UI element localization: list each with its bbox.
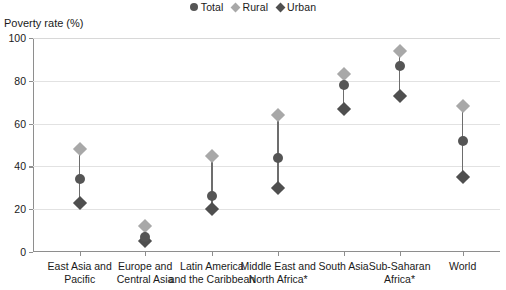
legend-label-rural: Rural [242,2,268,13]
data-point-rural[interactable] [393,44,407,58]
data-point-rural[interactable] [271,108,285,122]
x-axis-label-line: Middle East and [241,260,316,273]
x-axis-label-4: South Asia [318,260,368,273]
y-tick-label-80: 80 [14,75,26,87]
y-tick-mark-0 [29,252,33,253]
y-tick-mark-20 [29,209,33,210]
y-tick-label-0: 0 [20,246,26,258]
x-axis-label-line: Pacific [48,273,112,286]
x-axis-label-line: Central Asia [117,273,174,286]
data-point-urban[interactable] [336,102,350,116]
data-point-total[interactable] [207,191,217,201]
x-axis-label-line: South Asia [318,260,368,273]
gridline-100 [33,38,500,39]
x-axis-label-line: Sub-Saharan [369,260,431,273]
gridline-60 [33,124,500,125]
poverty-rate-chart: Total Rural Urban Poverty rate (%) 02040… [0,0,506,290]
x-axis-label-3: Middle East andNorth Africa* [241,260,316,285]
plot-area: 020406080100 [33,38,500,252]
legend-entry-rural[interactable]: Rural [232,2,268,13]
x-axis-label-5: Sub-SaharanAfrica* [369,260,431,285]
y-tick-mark-100 [29,38,33,39]
x-axis-label-0: East Asia andPacific [48,260,112,285]
x-axis-label-1: Europe andCentral Asia [117,260,174,285]
data-point-urban[interactable] [73,196,87,210]
data-point-rural[interactable] [205,149,219,163]
chart-legend: Total Rural Urban [0,2,506,13]
x-axis-label-6: World [449,260,476,273]
x-axis-labels: East Asia andPacificEurope andCentral As… [33,256,500,290]
data-point-total[interactable] [395,61,405,71]
x-axis-line [33,251,500,252]
data-point-total[interactable] [75,174,85,184]
y-tick-mark-60 [29,124,33,125]
legend-entry-urban[interactable]: Urban [277,2,316,13]
total-marker-icon [190,3,198,11]
y-tick-label-20: 20 [14,203,26,215]
x-axis-label-line: Africa* [369,273,431,286]
legend-label-total: Total [201,2,224,13]
y-tick-mark-80 [29,81,33,82]
data-point-total[interactable] [140,232,150,242]
gridline-80 [33,81,500,82]
data-point-rural[interactable] [73,142,87,156]
y-axis-title: Poverty rate (%) [4,17,83,29]
data-point-total[interactable] [339,80,349,90]
data-point-total[interactable] [273,153,283,163]
urban-marker-icon [276,2,286,12]
data-point-rural[interactable] [456,99,470,113]
x-axis-label-line: World [449,260,476,273]
range-connector [277,115,278,188]
y-axis-line [33,38,34,252]
rural-marker-icon [231,2,241,12]
y-tick-mark-40 [29,166,33,167]
x-axis-label-line: North Africa* [241,273,316,286]
x-axis-label-line: Europe and [117,260,174,273]
gridline-20 [33,209,500,210]
legend-entry-total[interactable]: Total [190,2,224,13]
data-point-urban[interactable] [205,202,219,216]
x-axis-label-line: East Asia and [48,260,112,273]
legend-label-urban: Urban [287,2,316,13]
y-tick-label-100: 100 [8,32,26,44]
data-point-urban[interactable] [271,181,285,195]
y-tick-label-60: 60 [14,118,26,130]
data-point-urban[interactable] [393,89,407,103]
y-tick-label-40: 40 [14,160,26,172]
data-point-total[interactable] [458,136,468,146]
gridline-40 [33,166,500,167]
data-point-urban[interactable] [456,170,470,184]
